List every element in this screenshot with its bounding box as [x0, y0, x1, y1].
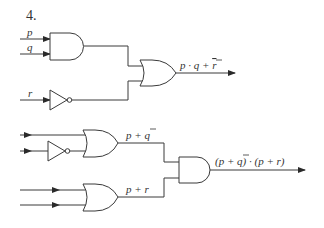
circuit-1: p q r p · q + r [20, 26, 235, 110]
not-gate-icon [50, 90, 67, 110]
arrow-icon [52, 187, 60, 193]
input-label-p: p [26, 26, 33, 38]
or-gate-icon [83, 184, 118, 211]
or-gate-icon [140, 60, 176, 86]
arrow-icon [24, 132, 32, 138]
wire-or2-to-and [164, 178, 179, 197]
input-label-r: r [28, 87, 33, 99]
and-gate-icon [179, 157, 210, 183]
or-gate-icon [83, 130, 118, 157]
and-gate-icon [50, 33, 84, 60]
wire-and-to-or [84, 46, 144, 66]
problem-number: 4. [26, 8, 37, 23]
arrow-icon [52, 202, 60, 208]
wire-not-to-or [72, 81, 144, 100]
not-bubble-icon [67, 98, 72, 103]
output-label-2: (p + q) · (p + r) [215, 155, 285, 168]
logic-circuit-diagram: 4. p q r p · q + r [0, 0, 324, 228]
intermediate-label-1: p + q [125, 129, 150, 141]
intermediate-label-2: p + r [125, 183, 149, 195]
not-gate-icon [48, 141, 65, 161]
input-label-q: q [27, 41, 33, 53]
wire-or1-to-and [164, 143, 179, 162]
output-label-1: p · q + r [179, 59, 217, 71]
arrow-icon [24, 148, 32, 154]
not-bubble-icon [65, 149, 70, 154]
circuit-2: p + q p + r (p + q) · (p + r) [20, 129, 305, 211]
